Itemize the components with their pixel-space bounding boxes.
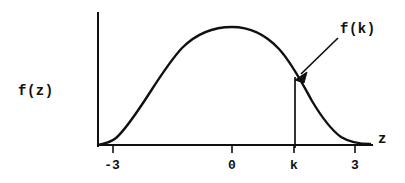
x-tick-label-zero: 0 — [228, 158, 236, 173]
x-tick-label-k: k — [290, 158, 298, 173]
x-tick-label-neg3: -3 — [104, 158, 120, 173]
y-axis-label: f(z) — [18, 84, 54, 98]
fk-annotation-label: f(k) — [340, 22, 376, 36]
normal-distribution-figure: f(z) f(k) z -3 0 k 3 — [0, 0, 405, 183]
x-axis-label: z — [378, 132, 387, 146]
fk-callout-arrow-shaft — [301, 38, 338, 74]
normal-density-curve — [98, 27, 370, 145]
x-tick-label-pos3: 3 — [351, 158, 359, 173]
